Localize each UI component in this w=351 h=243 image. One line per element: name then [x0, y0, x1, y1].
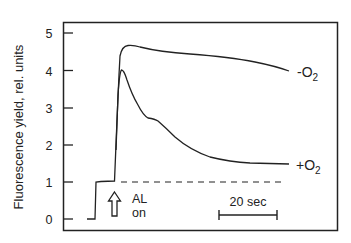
scale-bar-label: 20 sec	[230, 195, 267, 209]
y-tick-5: 5	[46, 27, 53, 41]
trace-plus-o2	[116, 70, 289, 164]
y-tick-4: 4	[46, 65, 53, 79]
y-tick-0: 0	[46, 213, 53, 227]
fluorescence-chart: 0 1 2 3 4 5 Fluorescence yield, rel. uni…	[0, 0, 351, 243]
plot-frame	[64, 23, 338, 231]
time-scale-bar	[219, 210, 277, 220]
y-axis-ticks	[64, 33, 73, 219]
y-axis-tick-labels: 0 1 2 3 4 5	[46, 27, 53, 227]
y-axis-label: Fluorescence yield, rel. units	[11, 44, 26, 209]
y-tick-2: 2	[46, 139, 53, 153]
on-label: on	[132, 206, 146, 220]
al-label: AL	[132, 192, 147, 206]
y-tick-3: 3	[46, 102, 53, 116]
label-plus-o2: +O2	[296, 157, 321, 176]
y-tick-1: 1	[46, 176, 53, 190]
label-minus-o2: -O2	[297, 64, 319, 83]
up-arrow-icon	[109, 192, 121, 216]
trace-minus-o2	[87, 45, 289, 219]
